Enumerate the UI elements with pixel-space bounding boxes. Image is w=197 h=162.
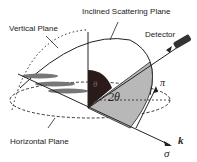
- sample-slab: [35, 82, 75, 87]
- sample-slab: [22, 74, 58, 79]
- detector-icon: [173, 34, 192, 49]
- vertical-plane-leader: [46, 36, 58, 48]
- vertical-plane-label: Vertical Plane: [9, 25, 58, 33]
- detector-label: Detector: [145, 31, 175, 39]
- pi-symbol: π: [160, 78, 165, 88]
- inclined-plane-leader: [110, 22, 118, 40]
- k-arrowhead: [164, 141, 172, 146]
- horizontal-plane-leader: [48, 118, 55, 128]
- inclined-plane-label: Inclined Scattering Plane: [82, 8, 171, 16]
- scattering-geometry-diagram: Inclined Scattering Plane Vertical Plane…: [0, 0, 197, 162]
- k-symbol: k: [178, 135, 184, 146]
- vertical-plane-arc: [12, 30, 88, 110]
- two-theta-symbol: 2θ: [108, 91, 120, 103]
- horizontal-plane-label: Horizontal Plane: [10, 138, 69, 146]
- sigma-symbol: σ: [164, 148, 169, 159]
- pi-arrowhead: [153, 86, 158, 93]
- theta-symbol: θ: [93, 80, 97, 89]
